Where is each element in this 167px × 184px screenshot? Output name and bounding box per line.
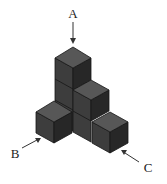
arrow-B: B <box>11 138 41 161</box>
label-A: A <box>68 6 78 21</box>
arrow-C: C <box>121 150 152 175</box>
label-B: B <box>11 146 20 161</box>
cube-right-C <box>92 112 128 153</box>
isometric-cube-diagram: A B C <box>0 0 167 184</box>
label-C: C <box>144 160 153 175</box>
arrow-A: A <box>68 6 78 44</box>
